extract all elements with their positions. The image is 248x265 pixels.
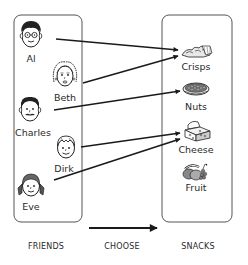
snack-label-fruit: Fruit <box>185 182 206 193</box>
friend-label-al: Al <box>26 53 35 64</box>
snack-fruit: Fruit <box>183 164 207 193</box>
crisps-icon <box>182 46 212 57</box>
friend-label-eve: Eve <box>22 201 40 212</box>
cheese-icon <box>185 121 210 141</box>
snack-crisps: Crisps <box>181 46 212 72</box>
friend-al: Al <box>20 21 42 64</box>
man-with-glasses-face-icon <box>20 21 42 47</box>
arrow-al-to-crisps <box>56 39 178 50</box>
snack-cheese: Cheese <box>178 121 213 155</box>
friend-label-dirk: Dirk <box>54 163 74 174</box>
boy-face-icon <box>57 136 74 158</box>
man-with-mustache-face-icon <box>19 97 41 121</box>
friend-label-beth: Beth <box>54 92 76 103</box>
snack-label-cheese: Cheese <box>178 144 213 155</box>
caption-snacks: SNACKS <box>181 242 215 251</box>
mapping-diagram: Al Beth Charles <box>0 0 248 265</box>
friend-beth: Beth <box>53 62 76 103</box>
arrow-dirk-to-cheese <box>81 133 180 147</box>
arrow-beth-to-crisps <box>83 56 178 83</box>
snack-label-crisps: Crisps <box>181 61 210 72</box>
friend-eve: Eve <box>18 174 44 212</box>
girl-with-pigtails-face-icon <box>18 174 44 196</box>
friend-charles: Charles <box>15 97 51 138</box>
woman-curly-hair-face-icon <box>53 62 76 86</box>
fruit-icon <box>183 164 207 180</box>
snack-nuts: Nuts <box>183 83 209 112</box>
friend-dirk: Dirk <box>54 136 74 174</box>
nuts-bowl-icon <box>183 83 209 95</box>
snack-label-nuts: Nuts <box>185 101 207 112</box>
caption-friends: FRIENDS <box>28 242 64 251</box>
caption-choose: CHOOSE <box>104 242 140 251</box>
friend-label-charles: Charles <box>15 127 51 138</box>
